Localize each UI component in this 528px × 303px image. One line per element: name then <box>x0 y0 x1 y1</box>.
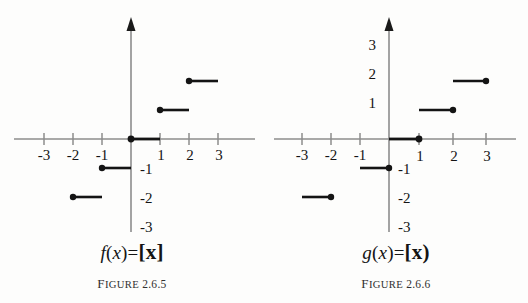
step-segment-y--1 <box>99 165 131 171</box>
caption-word: FIGURE <box>361 276 403 291</box>
y-tick-label--2: -2 <box>398 190 411 206</box>
x-tick-label--3: -3 <box>38 147 51 163</box>
caption-word: FIGURE <box>97 276 139 291</box>
caption-number: 2.6.5 <box>142 278 167 290</box>
y-tick-label--1: -1 <box>398 161 411 177</box>
bracket-var: x <box>146 240 157 264</box>
closed-endpoint-dot <box>328 194 334 200</box>
y-tick-label-2: 2 <box>369 66 377 82</box>
x-tick-label-2: 2 <box>450 148 458 164</box>
closed-endpoint-dot <box>416 136 423 143</box>
step-segment-y-2 <box>186 78 218 84</box>
function-arg: x <box>379 242 388 263</box>
function-arg: x <box>112 242 121 263</box>
bracket-open: [ <box>405 240 412 264</box>
y-axis-arrowhead <box>385 17 394 31</box>
function-name-g: g <box>362 242 372 263</box>
x-tick-label-1: 1 <box>416 148 424 164</box>
step-segment-y--2 <box>302 194 334 200</box>
bracket-close: ] <box>156 240 163 264</box>
step-segment-y-0 <box>389 136 422 143</box>
closed-endpoint-dot <box>483 78 489 84</box>
y-tick-label--1: -1 <box>140 161 153 177</box>
step-segment-y-1 <box>157 107 189 113</box>
equals-sign: = <box>394 242 405 263</box>
step-segment-y-1 <box>419 107 456 113</box>
step-segment-y-0 <box>128 136 160 143</box>
closed-endpoint-dot <box>70 194 76 200</box>
function-label-g: g(x)=[x) <box>264 240 528 265</box>
bracket-var: x <box>412 240 423 264</box>
figure-caption-2-6-5: FIGURE 2.6.5 <box>0 276 264 292</box>
closed-endpoint-dot <box>386 165 392 171</box>
closed-endpoint-dot <box>450 107 456 113</box>
x-tick-label--1: -1 <box>96 147 109 163</box>
closed-endpoint-dot <box>128 136 135 143</box>
y-axis-arrowhead <box>127 17 136 31</box>
equals-sign: = <box>128 242 139 263</box>
figure-2-6-6: -3 -2 -1 1 2 3 3 2 1 -1 -2 -3 <box>264 0 528 303</box>
ceiling-function-plot: -3 -2 -1 1 2 3 3 2 1 -1 -2 -3 <box>264 0 528 240</box>
step-segment-y-2 <box>453 78 489 84</box>
figure-2-6-5: -3 -2 -1 1 2 3 -1 -2 -3 <box>0 0 264 303</box>
x-tick-label--3: -3 <box>296 147 309 163</box>
x-tick-label-3: 3 <box>215 147 223 163</box>
bracket-close: ) <box>423 240 430 264</box>
y-tick-label--3: -3 <box>398 219 411 235</box>
y-tick-label--2: -2 <box>140 190 153 206</box>
x-tick-label--2: -2 <box>67 147 80 163</box>
x-tick-label-3: 3 <box>483 148 491 164</box>
step-segment-y--2 <box>70 194 102 200</box>
y-tick-label-1: 1 <box>369 95 377 111</box>
x-tick-label--2: -2 <box>325 147 338 163</box>
figure-pair-page: -3 -2 -1 1 2 3 -1 -2 -3 <box>0 0 528 303</box>
x-tick-label-2: 2 <box>186 147 194 163</box>
figure-caption-2-6-6: FIGURE 2.6.6 <box>264 276 528 292</box>
step-segment-y--1 <box>360 165 392 171</box>
bracket-open: [ <box>139 240 146 264</box>
x-tick-label--1: -1 <box>354 147 367 163</box>
closed-endpoint-dot <box>157 107 163 113</box>
floor-function-plot: -3 -2 -1 1 2 3 -1 -2 -3 <box>0 0 264 240</box>
y-tick-label--3: -3 <box>140 219 153 235</box>
function-label-f: f(x)=[x] <box>0 240 264 265</box>
caption-number: 2.6.6 <box>406 278 431 290</box>
closed-endpoint-dot <box>186 78 192 84</box>
y-tick-label-3: 3 <box>369 37 377 53</box>
x-tick-label-1: 1 <box>157 147 165 163</box>
closed-endpoint-dot <box>99 165 105 171</box>
